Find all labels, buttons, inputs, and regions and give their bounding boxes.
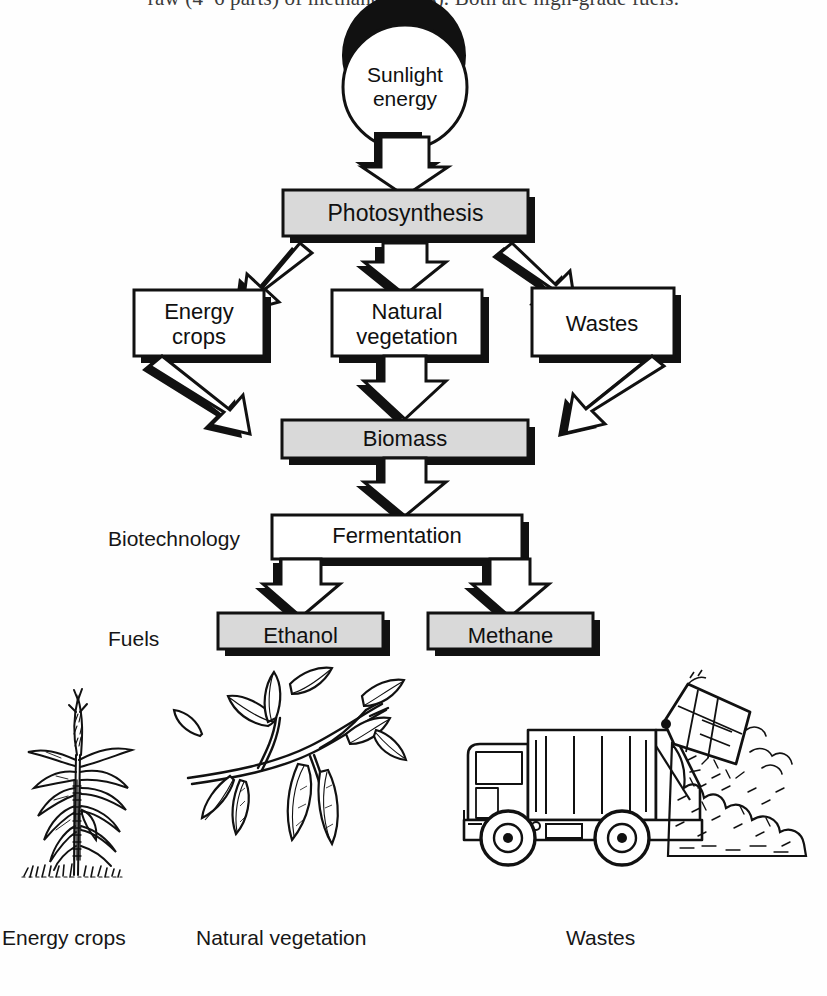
caption-natural-vegetation: Natural vegetation [196, 926, 366, 950]
node-label-biomass: Biomass [282, 420, 528, 458]
node-label-methane: Methane [428, 618, 593, 654]
row-label-fuels: Fuels [108, 627, 159, 651]
leafy-branch-icon [170, 660, 430, 880]
node-label-ethanol: Ethanol [218, 618, 383, 654]
hinge-dot [661, 719, 671, 729]
arrow-wastes-to-biomass [558, 356, 664, 437]
node-label-photosynthesis: Photosynthesis [283, 190, 528, 238]
biomass-flow-chart: Sunlight energy Photosynthesis Energy cr… [0, 0, 827, 680]
arrow-biomass-to-fermentation [356, 458, 446, 520]
caption-energy-crops: Energy crops [2, 926, 126, 950]
caption-wastes: Wastes [566, 926, 635, 950]
node-label-energy-crops: Energy crops [134, 292, 264, 358]
node-label-wastes: Wastes [532, 290, 672, 358]
garbage-truck-icon [450, 660, 820, 880]
diagram-page: raw (4–6 parts) of methane (a gas). Both… [0, 0, 827, 996]
arrow-energy-crops-to-biomass [142, 356, 250, 438]
row-label-biotechnology: Biotechnology [108, 527, 240, 551]
corn-plant-icon [16, 660, 166, 890]
node-label-fermentation: Fermentation [272, 515, 522, 557]
arrow-natural-vegetation-to-biomass [356, 356, 446, 423]
node-label-sunlight: Sunlight energy [330, 50, 480, 124]
node-label-natural-vegetation: Natural vegetation [332, 292, 482, 358]
